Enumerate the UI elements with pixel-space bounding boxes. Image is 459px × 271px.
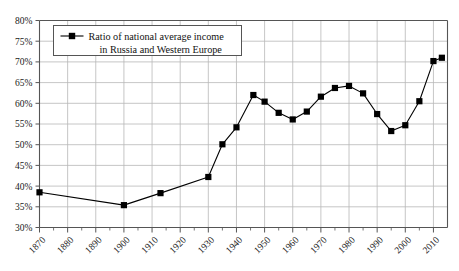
chart-legend: Ratio of national average incomein Russi… xyxy=(54,26,242,56)
y-tick-label: 55% xyxy=(15,119,33,129)
data-point-marker xyxy=(157,190,163,196)
y-tick-label: 35% xyxy=(15,202,33,212)
data-point-marker xyxy=(332,85,338,91)
data-point-marker xyxy=(250,92,256,98)
data-point-marker xyxy=(290,116,296,122)
data-point-marker xyxy=(276,110,282,116)
data-point-marker xyxy=(219,141,225,147)
legend-label-line2: in Russia and Western Europe xyxy=(100,44,223,55)
y-tick-label: 30% xyxy=(15,223,33,233)
data-point-marker xyxy=(388,128,394,134)
data-point-marker xyxy=(374,111,380,117)
line-chart: 30%35%40%45%50%55%60%65%70%75%80% 187018… xyxy=(0,0,459,271)
data-point-marker xyxy=(262,99,268,105)
data-point-marker xyxy=(346,83,352,89)
data-point-marker xyxy=(430,58,436,64)
data-point-marker xyxy=(439,55,445,61)
y-tick-label: 75% xyxy=(15,37,33,47)
y-tick-label: 60% xyxy=(15,99,33,109)
data-point-marker xyxy=(360,90,366,96)
data-point-marker xyxy=(318,94,324,100)
legend-label-line1: Ratio of national average income xyxy=(89,31,225,42)
legend-marker-sample xyxy=(69,33,75,39)
data-point-marker xyxy=(402,122,408,128)
data-point-marker xyxy=(205,174,211,180)
y-tick-label: 45% xyxy=(15,161,33,171)
data-point-marker xyxy=(121,202,127,208)
y-tick-label: 50% xyxy=(15,140,33,150)
y-tick-label: 80% xyxy=(15,16,33,26)
chart-container: 30%35%40%45%50%55%60%65%70%75%80% 187018… xyxy=(0,0,459,271)
y-tick-label: 70% xyxy=(15,57,33,67)
y-tick-label: 40% xyxy=(15,182,33,192)
data-point-marker xyxy=(36,189,42,195)
y-tick-label: 65% xyxy=(15,78,33,88)
data-point-marker xyxy=(416,98,422,104)
data-point-marker xyxy=(233,124,239,130)
data-point-marker xyxy=(304,108,310,114)
